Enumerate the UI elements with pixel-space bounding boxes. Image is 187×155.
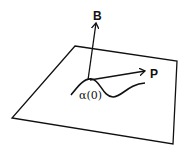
vector-p bbox=[90, 71, 145, 80]
label-p: P bbox=[150, 67, 158, 81]
binormal-vector-b bbox=[88, 23, 96, 80]
diagram-canvas: B P α(0) bbox=[0, 0, 187, 155]
label-alpha-0: α(0) bbox=[79, 89, 102, 102]
label-b: B bbox=[93, 9, 102, 23]
